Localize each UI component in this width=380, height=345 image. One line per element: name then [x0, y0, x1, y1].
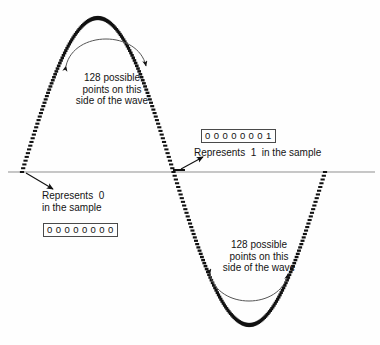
- diagram-canvas: 128 possible points on this side of the …: [0, 0, 380, 345]
- curved-arrow-bottom-icon: [210, 274, 288, 301]
- waveform-graphic: [0, 0, 380, 345]
- annotation-bottom-note: 128 possible points on this side of the …: [203, 239, 315, 274]
- pointer-zero-icon: [26, 173, 53, 189]
- annotation-top-note: 128 possible points on this side of the …: [56, 72, 168, 107]
- annotation-represents-one: Represents 1 in the sample: [194, 147, 336, 159]
- bit-box-one-sample: 0 0 0 0 0 0 0 1: [201, 129, 276, 143]
- bit-box-zero-sample: 0 0 0 0 0 0 0 0: [43, 223, 118, 237]
- pointer-one-icon: [181, 157, 203, 169]
- annotation-represents-zero: Represents 0 in the sample: [42, 190, 140, 213]
